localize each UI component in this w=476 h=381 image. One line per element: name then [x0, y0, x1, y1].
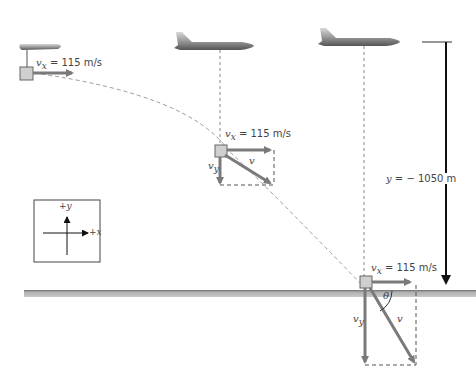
projectile-diagram: vx = 115 m/s vx = 115 m/s vy v vx = 115 … — [0, 0, 476, 381]
v-vector — [370, 288, 414, 362]
ground-v-label: v — [397, 313, 403, 324]
vx-value: = 115 m/s — [385, 262, 437, 273]
axis-x-label: +x — [89, 227, 102, 237]
angle-theta-label: θ — [383, 290, 389, 301]
airplane-icon — [318, 28, 400, 276]
vx-subscript: x — [42, 61, 47, 71]
vy-subscript: y — [214, 164, 219, 174]
middle-vx-label: vx = 115 m/s — [225, 128, 291, 142]
package-middle — [215, 145, 274, 185]
vx-subscript: x — [377, 266, 382, 276]
ground-line — [24, 290, 476, 297]
middle-v-label: v — [249, 155, 255, 166]
vx-value: = 115 m/s — [50, 57, 102, 68]
theta-symbol: θ — [383, 290, 389, 301]
height-symbol: y — [386, 173, 392, 184]
ground-vy-label: vy — [353, 313, 364, 327]
height-value: = − 1050 m — [395, 173, 456, 184]
vx-value: = 115 m/s — [239, 128, 291, 139]
initial-vx-label: vx = 115 m/s — [36, 57, 102, 71]
vx-subscript: x — [231, 132, 236, 142]
vy-subscript: y — [359, 317, 364, 327]
height-arrow — [422, 42, 452, 283]
v-vector — [225, 155, 270, 183]
v-symbol: v — [249, 155, 255, 166]
axis-y-label: +y — [59, 201, 72, 211]
ground-vx-label: vx = 115 m/s — [371, 262, 437, 276]
height-label: y = − 1050 m — [385, 173, 457, 184]
middle-vy-label: vy — [208, 160, 219, 174]
v-symbol: v — [397, 313, 403, 324]
